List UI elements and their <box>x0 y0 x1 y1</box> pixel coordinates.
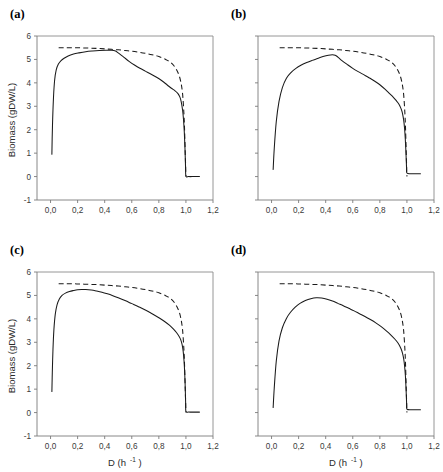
x-tick-label: 0,4 <box>99 442 111 451</box>
x-axis-title-close: ) <box>138 457 141 468</box>
panel-c: (c) Biomass (gDW/L) -101234560,00,20,40,… <box>0 236 221 472</box>
curve-solid-model <box>52 50 200 177</box>
y-tick-label: 6 <box>26 32 31 41</box>
curve-solid-model <box>273 298 420 410</box>
x-tick-label: 0,8 <box>153 206 165 215</box>
curve-dashed-reference <box>280 284 407 413</box>
x-tick-label: 1,0 <box>401 442 413 451</box>
x-tick-label: 0,0 <box>266 206 278 215</box>
y-tick-label: 0 <box>26 409 31 418</box>
x-tick-label: 0,2 <box>72 206 84 215</box>
x-axis-title-exponent: -1 <box>130 456 136 463</box>
x-tick-label: 0,6 <box>347 442 359 451</box>
panel-c-plot: -101234560,00,20,40,60,81,01,2D (h-1) <box>24 268 219 468</box>
y-tick-label: 5 <box>26 291 31 300</box>
y-tick-label: 4 <box>26 79 31 88</box>
figure-container: (a) Biomass (gDW/L) -101234560,00,20,40,… <box>0 0 443 472</box>
x-tick-label: 0,2 <box>293 206 305 215</box>
x-tick-label: 1,0 <box>401 206 413 215</box>
y-tick-label: 2 <box>26 362 31 371</box>
panel-a-ylabel-group: Biomass (gDW/L) <box>6 83 17 157</box>
x-tick-label: 0,0 <box>266 442 278 451</box>
x-tick-label: 0,6 <box>347 206 359 215</box>
panel-b-plot: 0,00,20,40,60,81,01,2 <box>255 36 440 215</box>
y-tick-label: 3 <box>26 338 31 347</box>
x-axis-title: D (h <box>108 457 126 468</box>
panel-b-svg: (b) 0,00,20,40,60,81,01,2 <box>221 0 442 236</box>
panel-a-label: (a) <box>10 7 25 21</box>
y-axis-title: Biomass (gDW/L) <box>6 83 17 157</box>
x-tick-label: 1,0 <box>180 442 192 451</box>
curve-dashed-reference <box>59 48 186 177</box>
y-tick-label: 1 <box>26 149 31 158</box>
x-tick-label: 1,2 <box>428 206 440 215</box>
y-tick-label: 2 <box>26 126 31 135</box>
y-axis-title: Biomass (gDW/L) <box>6 319 17 393</box>
panel-b-label: (b) <box>231 7 246 21</box>
x-axis-title: D (h <box>329 457 347 468</box>
y-tick-label: -1 <box>24 432 32 441</box>
panel-c-label: (c) <box>10 243 24 257</box>
x-tick-label: 0,4 <box>320 442 332 451</box>
y-tick-label: -1 <box>24 196 32 205</box>
x-tick-label: 0,8 <box>153 442 165 451</box>
y-tick-label: 3 <box>26 102 31 111</box>
x-tick-label: 1,0 <box>180 206 192 215</box>
x-tick-label: 0,0 <box>45 442 57 451</box>
x-tick-label: 0,4 <box>320 206 332 215</box>
panel-a: (a) Biomass (gDW/L) -101234560,00,20,40,… <box>0 0 221 236</box>
y-tick-label: 4 <box>26 315 31 324</box>
x-tick-label: 0,2 <box>293 442 305 451</box>
x-tick-label: 0,6 <box>126 206 138 215</box>
x-tick-label: 0,8 <box>374 442 386 451</box>
y-tick-label: 6 <box>26 268 31 277</box>
curve-dashed-reference <box>59 284 186 413</box>
x-tick-label: 0,8 <box>374 206 386 215</box>
x-axis-title-exponent: -1 <box>351 456 357 463</box>
panel-a-svg: (a) Biomass (gDW/L) -101234560,00,20,40,… <box>0 0 221 236</box>
y-tick-label: 5 <box>26 55 31 64</box>
x-axis-title-close: ) <box>359 457 362 468</box>
x-tick-label: 0,4 <box>99 206 111 215</box>
x-tick-label: 1,2 <box>207 206 219 215</box>
panel-c-ylabel-group: Biomass (gDW/L) <box>6 319 17 393</box>
y-tick-label: 1 <box>26 385 31 394</box>
x-tick-label: 1,2 <box>207 442 219 451</box>
x-tick-label: 0,2 <box>72 442 84 451</box>
x-tick-label: 0,0 <box>45 206 57 215</box>
panel-c-svg: (c) Biomass (gDW/L) -101234560,00,20,40,… <box>0 236 221 472</box>
x-tick-label: 0,6 <box>126 442 138 451</box>
panel-a-plot: -101234560,00,20,40,60,81,01,2 <box>24 32 219 215</box>
x-tick-label: 1,2 <box>428 442 440 451</box>
y-tick-label: 0 <box>26 173 31 182</box>
panel-d-svg: (d) 0,00,20,40,60,81,01,2D (h-1) <box>221 236 442 472</box>
panel-d-plot: 0,00,20,40,60,81,01,2D (h-1) <box>255 272 440 468</box>
panel-d: (d) 0,00,20,40,60,81,01,2D (h-1) <box>221 236 442 472</box>
panel-d-label: (d) <box>231 243 246 257</box>
panel-b: (b) 0,00,20,40,60,81,01,2 <box>221 0 442 236</box>
